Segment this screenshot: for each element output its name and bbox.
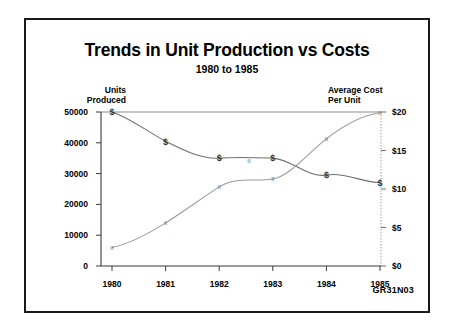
x-axis-ticks	[112, 266, 380, 271]
right-axis-ticks	[381, 112, 386, 266]
x-tick-label-1982: 1982	[199, 279, 239, 289]
left-tick-label-40000: 40000	[40, 138, 88, 148]
x-tick-label-1980: 1980	[92, 279, 132, 289]
right-tick-label-0: $0	[392, 261, 426, 271]
marker-units-1985: $	[377, 178, 382, 188]
marker-cost-1985: II	[378, 110, 382, 116]
left-tick-label-0: 0	[40, 261, 88, 271]
x-tick-label-1984: 1984	[306, 279, 346, 289]
right-tick-label-20: $20	[392, 107, 426, 117]
marker-units-1980: $	[109, 107, 114, 117]
slide-border-frame: Trends in Unit Production vs Costs 1980 …	[24, 18, 430, 313]
marker-units-1983: $	[270, 153, 275, 163]
slide-reference-code: GR31N03	[373, 285, 414, 295]
marker-units-1984: $	[324, 170, 329, 180]
left-tick-label-10000: 10000	[40, 230, 88, 240]
plot-area: $ $ $ $ $ $ II II II II II II II	[26, 20, 432, 315]
series-units-produced-line	[112, 112, 380, 183]
x-tick-label-1981: 1981	[146, 279, 186, 289]
right-tick-label-5: $5	[392, 223, 426, 233]
right-tick-label-10: $10	[392, 184, 426, 194]
series-units-produced-markers: $ $ $ $ $ $	[109, 107, 382, 188]
left-tick-label-20000: 20000	[40, 199, 88, 209]
marker-cost-1982: II	[218, 184, 222, 190]
right-tick-label-15: $15	[392, 146, 426, 156]
slide-canvas: Trends in Unit Production vs Costs 1980 …	[0, 0, 457, 334]
left-tick-label-50000: 50000	[40, 107, 88, 117]
left-axis-ticks	[96, 112, 101, 266]
marker-cost-1983: II	[271, 176, 275, 182]
marker-cost-1980: II	[110, 245, 114, 251]
marker-units-1982: $	[217, 153, 222, 163]
left-tick-label-30000: 30000	[40, 169, 88, 179]
marker-units-1981: $	[163, 137, 168, 147]
marker-units-stray: II	[247, 158, 251, 164]
marker-cost-1984: II	[325, 136, 329, 142]
x-tick-label-1983: 1983	[253, 279, 293, 289]
marker-cost-1981: II	[164, 220, 168, 226]
